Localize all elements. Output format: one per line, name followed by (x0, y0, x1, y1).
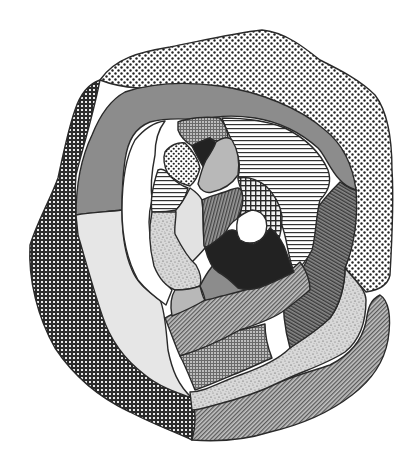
patterned-region-diagram (0, 0, 416, 467)
white-hole-region (237, 210, 267, 243)
